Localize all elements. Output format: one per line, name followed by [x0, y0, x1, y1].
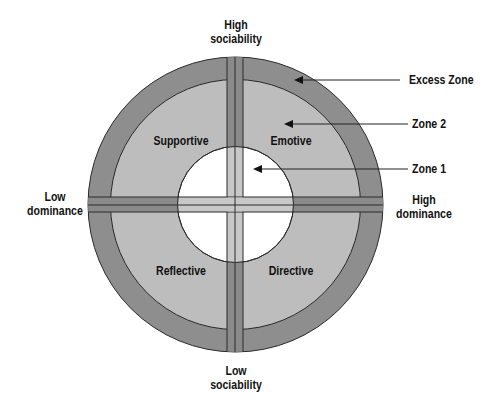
axis-label-right: High dominance	[389, 193, 459, 221]
quadrant-label-emotive: Emotive	[256, 134, 326, 148]
zone-label-excess: Excess Zone	[409, 73, 474, 87]
axis-label-left: Low dominance	[20, 190, 90, 218]
zone-label-zone2: Zone 2	[412, 117, 446, 131]
quadrant-label-reflective: Reflective	[146, 264, 216, 278]
quadrant-label-directive: Directive	[256, 264, 326, 278]
quadrant-label-supportive: Supportive	[146, 134, 216, 148]
axis-label-top: High sociability	[201, 18, 271, 46]
zone-label-zone1: Zone 1	[412, 162, 446, 176]
axis-label-bottom: Low sociability	[201, 364, 271, 392]
